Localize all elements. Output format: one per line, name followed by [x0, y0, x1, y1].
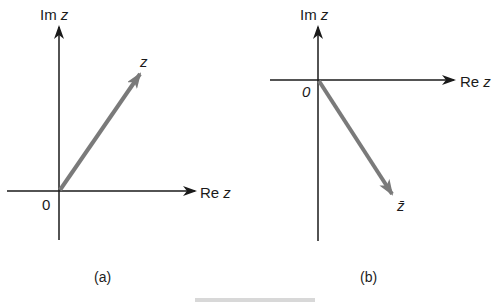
z-conjugate-vector-arrow [319, 81, 392, 194]
caption-a: (a) [94, 269, 111, 285]
im-axis-label: Im z [40, 6, 69, 23]
z-vector-arrow [60, 74, 140, 190]
truncated-caption-fragment [195, 298, 315, 302]
im-axis-label: Im z [300, 6, 329, 23]
origin-label: 0 [302, 83, 311, 100]
complex-plane-figure: Im z Re z 0 z (a) Im z Re z 0 z̄ (b) [0, 0, 497, 302]
re-axis-label: Re z [460, 73, 491, 90]
z-conjugate-label: z̄ [396, 197, 405, 214]
z-label: z [139, 53, 148, 70]
caption-b: (b) [360, 269, 377, 285]
re-axis-label: Re z [200, 184, 231, 201]
panel-a: Im z Re z 0 z (a) [7, 6, 231, 285]
origin-label: 0 [42, 196, 50, 213]
panel-b: Im z Re z 0 z̄ (b) [270, 6, 491, 285]
